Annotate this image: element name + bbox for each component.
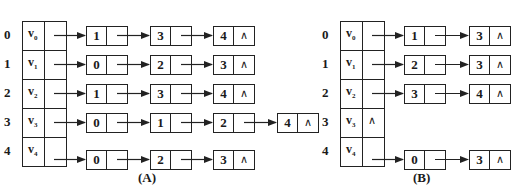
arrows-layer: [0, 0, 525, 193]
